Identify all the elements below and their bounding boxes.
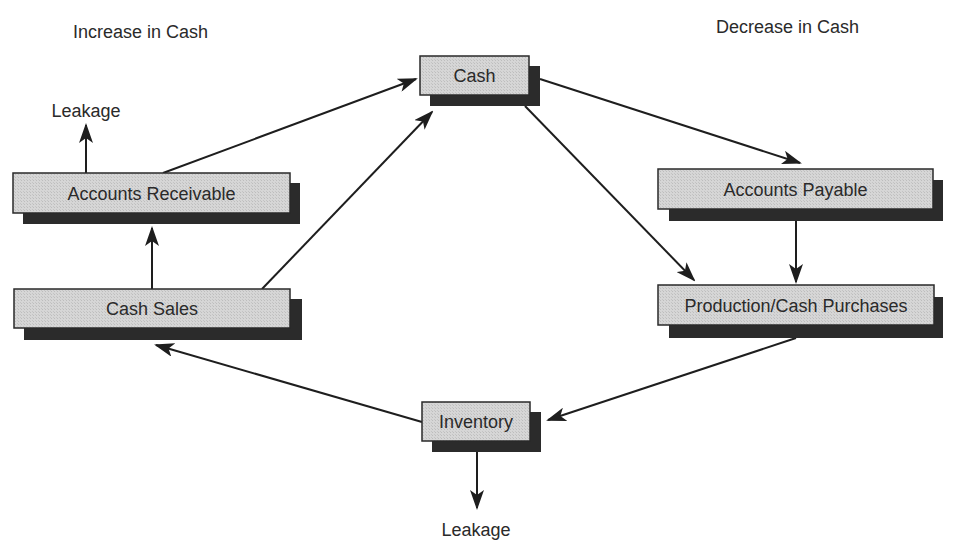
increase-in-cash-header: Increase in Cash: [73, 22, 208, 42]
node-production-cash-purchases: Production/Cash Purchases: [658, 285, 943, 338]
decrease-in-cash-header: Decrease in Cash: [716, 17, 859, 37]
node-inventory: Inventory: [422, 402, 541, 452]
node-label-cash: Cash: [453, 66, 495, 86]
node-label-cash-sales: Cash Sales: [106, 299, 198, 319]
node-label-accounts-receivable: Accounts Receivable: [67, 184, 235, 204]
node-label-accounts-payable: Accounts Payable: [723, 180, 867, 200]
edge-production-to-inventory: [548, 338, 796, 420]
node-label-inventory: Inventory: [439, 412, 513, 432]
edge-cash-to-ap: [540, 79, 800, 163]
node-accounts-receivable: Accounts Receivable: [13, 173, 300, 224]
node-label-production-cash-purchases: Production/Cash Purchases: [684, 296, 907, 316]
cash-flow-diagram: Increase in Cash Decrease in Cash Cash A…: [0, 0, 964, 554]
leakage-label-bottom: Leakage: [441, 520, 510, 540]
leakage-label-top: Leakage: [51, 101, 120, 121]
edge-ar-to-cash: [163, 79, 416, 173]
node-accounts-payable: Accounts Payable: [658, 169, 943, 221]
edge-inventory-to-cash-sales: [156, 345, 422, 422]
node-cash-sales: Cash Sales: [14, 289, 302, 340]
node-cash: Cash: [420, 56, 540, 106]
